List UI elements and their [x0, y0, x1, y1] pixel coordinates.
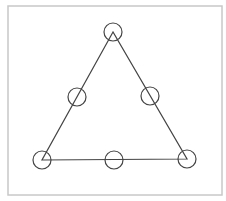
circle-nodes [33, 23, 196, 169]
triangle-diagram [0, 0, 226, 201]
triangle [42, 32, 187, 160]
